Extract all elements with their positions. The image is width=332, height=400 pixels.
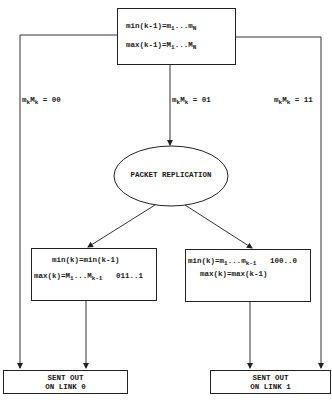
state-box-top: min(k-1)=m1...mN max(k-1)=M1...MN — [117, 8, 236, 65]
packet-replication-label: PACKET REPLICATION — [114, 172, 228, 180]
branch-label-01: mkMk = 01 — [172, 97, 211, 105]
output-link-1-line1: SENT OUT — [211, 375, 330, 383]
output-link-1-line2: ON LINK 1 — [211, 384, 330, 392]
branch-label-00: mkMk = 00 — [22, 97, 61, 105]
state-box-left: min(k)=min(k-1) max(k)=M1...Mk-1 011..1 — [31, 248, 157, 301]
min-k-left-text: min(k)=min(k-1) — [52, 257, 120, 265]
max-k-right-text: max(k)=max(k-1) — [200, 271, 268, 279]
output-link-1-box: SENT OUT ON LINK 1 — [210, 370, 331, 394]
min-k-1-text: min(k-1)=m1...mN — [126, 23, 196, 31]
output-link-0-line1: SENT OUT — [4, 375, 127, 383]
output-link-0-box: SENT OUT ON LINK 0 — [3, 370, 128, 394]
branch-label-11: mkMk = 11 — [274, 97, 313, 105]
output-link-0-line2: ON LINK 0 — [4, 384, 127, 392]
state-box-right: min(k)=m1...mk-1 100..0 max(k)=max(k-1) — [185, 249, 311, 302]
min-k-right-text: min(k)=m1...mk-1 100..0 — [188, 258, 297, 266]
max-k-left-text: max(k)=M1...Mk-1 011..1 — [34, 273, 143, 281]
max-k-1-text: max(k-1)=M1...MN — [126, 42, 196, 50]
